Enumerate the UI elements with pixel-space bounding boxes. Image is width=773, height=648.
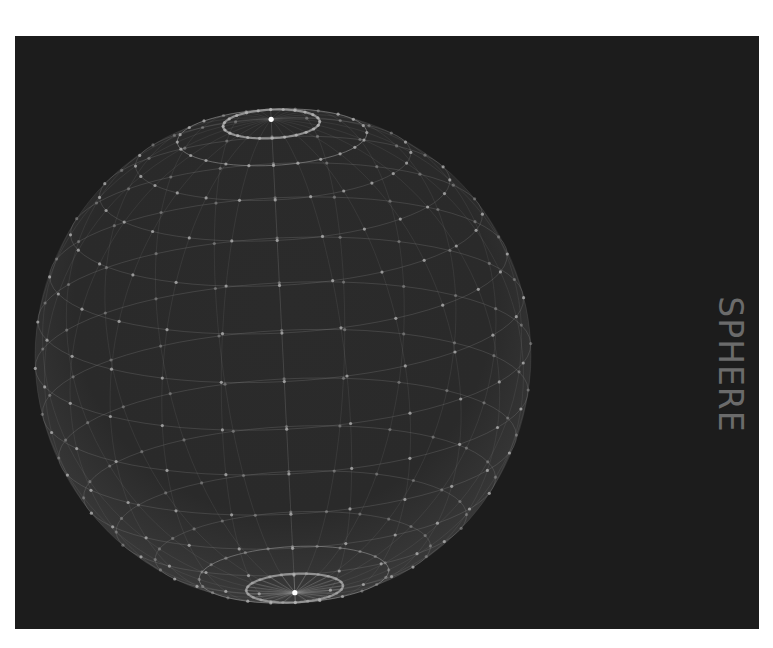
vertex-point <box>210 563 213 566</box>
vertex-point <box>147 157 150 160</box>
vertex-point <box>453 350 456 353</box>
vertex-point <box>352 118 355 121</box>
vertex-point <box>98 196 101 199</box>
vertex-point <box>390 575 393 578</box>
vertex-point <box>223 383 226 386</box>
vertex-point <box>305 117 308 120</box>
vertex-point <box>443 192 446 195</box>
vertex-point <box>317 124 320 127</box>
vertex-point <box>425 555 428 558</box>
vertex-point <box>358 550 361 553</box>
vertex-point <box>115 531 118 534</box>
vertex-point <box>473 220 476 223</box>
vertex-point <box>316 116 319 119</box>
vertex-point <box>140 450 143 453</box>
vertex-point <box>436 208 439 211</box>
vertex-point <box>448 178 451 181</box>
north-pole-vertex <box>269 117 274 122</box>
vertex-point <box>214 287 217 290</box>
vertex-point <box>219 167 222 170</box>
vertex-point <box>515 434 518 437</box>
vertex-point <box>64 439 67 442</box>
vertex-point <box>225 139 228 142</box>
vertex-point <box>341 584 344 587</box>
vertex-point <box>331 279 334 282</box>
vertex-point <box>257 109 260 112</box>
vertex-point <box>57 456 60 459</box>
vertex-point <box>188 236 191 239</box>
vertex-point <box>111 525 114 528</box>
vertex-point <box>402 332 405 335</box>
vertex-point <box>235 114 238 117</box>
vertex-point <box>221 332 224 335</box>
vertex-point <box>214 202 217 205</box>
vertex-point <box>339 119 342 122</box>
vertex-point <box>188 126 191 129</box>
vertex-point <box>394 533 397 536</box>
vertex-point <box>348 507 351 510</box>
vertex-point <box>282 108 285 111</box>
vertex-point <box>305 572 308 575</box>
vertex-point <box>477 288 480 291</box>
vertex-point <box>104 311 107 314</box>
vertex-point <box>285 428 288 431</box>
vertex-point <box>384 561 387 564</box>
vertex-point <box>494 476 497 479</box>
vertex-point <box>486 460 489 463</box>
vertex-point <box>171 537 174 540</box>
vertex-point <box>388 428 391 431</box>
vertex-point <box>103 182 106 185</box>
vertex-point <box>86 421 89 424</box>
vertex-point <box>169 392 172 395</box>
vertex-point <box>222 125 225 128</box>
vertex-point <box>283 136 286 139</box>
vertex-point <box>303 111 306 114</box>
vertex-point <box>442 165 445 168</box>
sphere-wireframe[interactable] <box>15 36 759 629</box>
vertex-point <box>108 464 111 467</box>
vertex-point <box>254 514 257 517</box>
vertex-point <box>387 518 390 521</box>
vertex-point <box>230 513 233 516</box>
vertex-point <box>223 128 226 131</box>
vertex-point <box>426 205 429 208</box>
vertex-point <box>508 451 511 454</box>
vertex-point <box>246 600 249 603</box>
vertex-point <box>225 284 228 287</box>
vertex-point <box>69 402 72 405</box>
vertex-point <box>230 239 233 242</box>
vertex-point <box>80 308 83 311</box>
vertex-point <box>450 485 453 488</box>
vertex-point <box>375 165 378 168</box>
vertex-point <box>90 512 93 515</box>
vertex-point <box>440 488 443 491</box>
vertex-point <box>217 334 220 337</box>
vertex-point <box>252 596 255 599</box>
vertex-point <box>519 407 522 410</box>
3d-viewport[interactable]: SPHERE <box>15 36 759 629</box>
vertex-point <box>339 546 342 549</box>
vertex-point <box>338 424 341 427</box>
vertex-point <box>258 578 261 581</box>
vertex-point <box>41 347 44 350</box>
vertex-point <box>317 573 320 576</box>
vertex-point <box>529 342 532 345</box>
vertex-point <box>213 242 216 245</box>
vertex-point <box>223 121 226 124</box>
vertex-point <box>174 509 177 512</box>
vertex-point <box>44 301 47 304</box>
vertex-point <box>222 114 225 117</box>
vertex-point <box>380 271 383 274</box>
vertex-point <box>201 126 204 129</box>
vertex-point <box>316 545 319 548</box>
vertex-point <box>392 172 395 175</box>
vertex-point <box>139 555 142 558</box>
vertex-point <box>468 507 471 510</box>
vertex-point <box>161 377 164 380</box>
vertex-point <box>321 235 324 238</box>
vertex-point <box>271 137 274 140</box>
vertex-point <box>165 469 168 472</box>
vertex-point <box>358 513 361 516</box>
vertex-point <box>195 585 198 588</box>
vertex-point <box>338 569 341 572</box>
